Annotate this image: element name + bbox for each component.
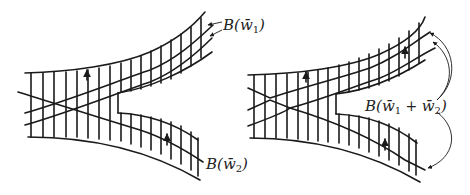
curved-pointer-lower <box>428 112 452 168</box>
diagram-canvas: B(w̄1) B(w̄2) <box>0 0 470 195</box>
right-panel: B(w̄1 + w̄2) <box>248 17 452 182</box>
label-pointer-w1-a <box>208 22 222 25</box>
label-B-w1-plus-w2: B(w̄1 + w̄2) <box>364 97 447 116</box>
left-top-boundary <box>25 12 205 73</box>
curved-pointer-upper-b <box>433 42 449 100</box>
left-bottom-boundary <box>28 137 200 180</box>
label-B-w1: B(w̄1) <box>222 16 265 35</box>
right-bottom-boundary <box>250 138 420 182</box>
left-hatching <box>31 18 201 176</box>
left-panel: B(w̄1) B(w̄2) <box>18 12 265 180</box>
label-pointer-w1-b <box>210 30 222 36</box>
label-B-w2: B(w̄2) <box>205 155 248 174</box>
